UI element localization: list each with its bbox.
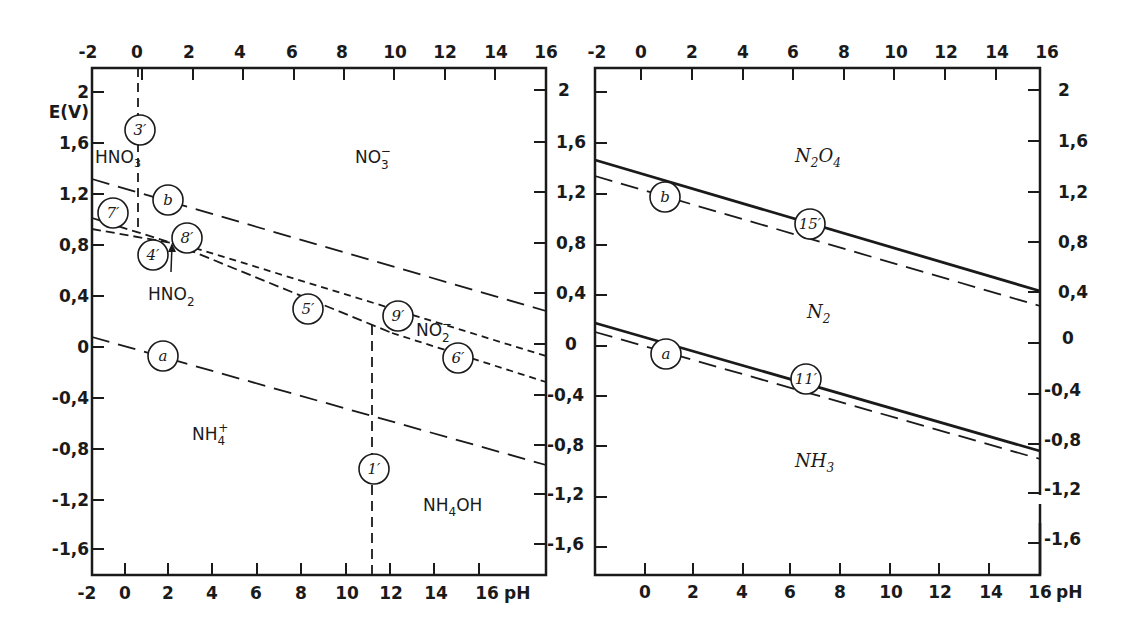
- tick-label: 2: [77, 82, 89, 102]
- tick-label: 0: [635, 42, 647, 62]
- right-panel: -2 0 2 4 6 8 10 12 14 16 0 2 4 6 8 10 12…: [588, 42, 1089, 602]
- tick-label: 0: [77, 337, 89, 357]
- tick-label: 6: [286, 42, 298, 62]
- tick-label: 0,4: [59, 286, 89, 306]
- tick-label: 2: [1058, 80, 1070, 100]
- tick-label: -1,2: [52, 490, 89, 510]
- left-bottom-ticks: [125, 563, 479, 575]
- marker-7prime: 7′: [98, 198, 128, 228]
- tick-label: 4: [737, 42, 749, 62]
- tick-label: -1,6: [1044, 529, 1081, 549]
- tick-label: 14: [979, 582, 1003, 602]
- species-nh3: NH3: [794, 450, 834, 475]
- tick-label: 0,4: [556, 283, 586, 303]
- tick-label: 1,6: [1058, 131, 1088, 151]
- tick-label: 4: [736, 582, 748, 602]
- right-species: N2O4 N2 NH3: [794, 145, 841, 475]
- svg-text:4′: 4′: [146, 246, 161, 264]
- right-y-tick-labels: 2 1,6 1,2 0,8 0,4 0 -0,4 -0,8 -1,2 -1,6: [1044, 80, 1088, 549]
- tick-label: 4: [206, 583, 218, 603]
- marker-a: a: [148, 341, 178, 371]
- svg-text:a: a: [159, 347, 168, 365]
- left-right-y-tick-labels: 2 1,6 1,2 0,8 0,4 0 -0,4 -0,8 -1,2 -1,6: [547, 80, 586, 554]
- svg-text:3′: 3′: [134, 121, 148, 139]
- right-markers: b 15′ a 11′: [650, 182, 825, 394]
- tick-label: 16: [1028, 582, 1052, 602]
- right-y-ticks: [1028, 90, 1040, 543]
- tick-label: 12: [934, 42, 958, 62]
- tick-label: 16: [534, 42, 558, 62]
- tick-label: 12: [379, 583, 403, 603]
- tick-label: -1,6: [547, 534, 584, 554]
- tick-label: 0: [119, 583, 131, 603]
- marker-a: a: [651, 339, 681, 369]
- svg-text:b: b: [660, 188, 670, 206]
- tick-label: 6: [250, 583, 262, 603]
- marker-4prime: 4′: [138, 240, 168, 270]
- tick-label: -0,4: [52, 388, 89, 408]
- tick-label: 1,2: [59, 184, 89, 204]
- svg-text:6′: 6′: [452, 349, 466, 367]
- tick-label: -1,6: [52, 539, 89, 559]
- svg-text:15′: 15′: [799, 215, 822, 233]
- species-n2: N2: [806, 301, 830, 326]
- tick-label: 8: [834, 582, 846, 602]
- svg-text:8′: 8′: [181, 229, 195, 247]
- tick-label: 0: [639, 582, 651, 602]
- tick-label: 0: [131, 42, 143, 62]
- left-panel: -2 0 2 4 6 8 10 12 14 16 -2 0 2 4 6 8 10…: [49, 42, 587, 603]
- tick-label: 10: [383, 42, 407, 62]
- tick-label: 0,8: [59, 235, 89, 255]
- left-top-tick-labels: -2 0 2 4 6 8 10 12 14 16: [79, 42, 558, 62]
- tick-label: 2: [162, 583, 174, 603]
- tick-label: 14: [985, 42, 1009, 62]
- tick-label: 2: [687, 582, 699, 602]
- tick-label: 0,8: [1058, 232, 1088, 252]
- tick-label: -0,8: [1044, 430, 1081, 450]
- left-top-ticks: [142, 68, 495, 80]
- tick-label: 1,6: [59, 133, 89, 153]
- tick-label: 2: [686, 42, 698, 62]
- marker-5prime: 5′: [293, 294, 323, 324]
- tick-label: 12: [433, 42, 457, 62]
- tick-label: 2: [183, 42, 195, 62]
- species-hno3: HNO3: [95, 147, 141, 170]
- tick-label: 0,8: [556, 233, 586, 253]
- tick-label: 12: [928, 582, 952, 602]
- tick-label: 6: [787, 42, 799, 62]
- tick-label: 8: [838, 42, 850, 62]
- tick-label: 1,2: [1058, 182, 1088, 202]
- marker-3prime: 3′: [125, 115, 155, 145]
- tick-label: -0,8: [547, 435, 584, 455]
- species-nh4: NH4+: [192, 421, 228, 448]
- tick-label: 16: [475, 583, 499, 603]
- tick-label: 14: [424, 583, 448, 603]
- marker-b: b: [650, 182, 680, 212]
- line-8prime-9prime: [172, 241, 546, 356]
- tick-label: 1,6: [556, 132, 586, 152]
- svg-text:5′: 5′: [302, 300, 316, 318]
- tick-label: -0,4: [547, 385, 584, 405]
- tick-label: 10: [335, 583, 359, 603]
- marker-9prime: 9′: [383, 301, 413, 331]
- marker-15prime: 15′: [795, 209, 825, 239]
- x-axis-title: pH: [1056, 582, 1082, 602]
- tick-label: -2: [79, 42, 98, 62]
- left-y-tick-labels: 2 E(V) 1,6 1,2 0,8 0,4 0 -0,4 -0,8 -1,2 …: [49, 82, 89, 559]
- tick-label: -2: [588, 42, 607, 62]
- marker-6prime: 6′: [443, 343, 473, 373]
- svg-text:7′: 7′: [107, 204, 121, 222]
- svg-text:b: b: [163, 191, 173, 209]
- right-top-ticks: [641, 68, 996, 80]
- tick-label: 4: [234, 42, 246, 62]
- tick-label: 0,4: [1058, 282, 1088, 302]
- marker-11prime: 11′: [791, 364, 821, 394]
- species-no2: NO2−: [416, 317, 452, 345]
- tick-label: -2: [78, 583, 97, 603]
- tick-label: 0: [565, 334, 577, 354]
- y-axis-title: E(V): [49, 102, 89, 122]
- svg-text:9′: 9′: [392, 307, 406, 325]
- tick-label: 16: [1035, 42, 1059, 62]
- tick-label: -1,2: [547, 484, 584, 504]
- left-right-y-ticks: [534, 90, 546, 544]
